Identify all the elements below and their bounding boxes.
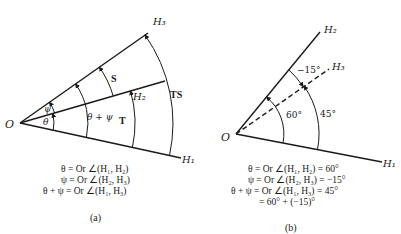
ray-label-h3-a: H₃ (152, 16, 166, 27)
arc-theta (53, 114, 54, 131)
angle-label-psi: ψ (44, 104, 52, 114)
arc-45 (304, 86, 319, 150)
ray-h3-a (20, 33, 148, 123)
caption-a: (a) (90, 212, 101, 223)
origin-label-b: O (221, 131, 230, 144)
ray-label-h2-a: H₂ (132, 91, 146, 102)
angle-label-neg15: −15° (297, 65, 321, 75)
ray-label-h2-b: H₂ (323, 24, 337, 35)
equation-b-1: θ = Or ∠(H₁, H₂) = 60° (248, 164, 339, 175)
origin-label-a: O (5, 118, 14, 131)
equation-b-3: θ + ψ = Or ∠(H₁, H₃) = 45° (231, 186, 338, 197)
diagram-b: O H₁ H₂ H₃ 60° 45° −15° (221, 24, 396, 169)
arc-theta-plus-psi (76, 84, 88, 137)
angle-label-t: T (119, 115, 126, 126)
angle-label-s: S (111, 73, 117, 84)
equation-a-1: θ = Or ∠(H₁, H₂) (61, 164, 128, 175)
ray-label-h1-a: H₁ (181, 154, 195, 165)
ray-h1-a (20, 123, 181, 158)
angle-label-45: 45° (320, 109, 336, 119)
diagram-a: O H₁ H₂ H₃ θ ψ θ + ψ S T TS (5, 16, 195, 165)
angle-label-theta: θ (43, 117, 49, 127)
equation-a-2: ψ = Or ∠(H₂, H₃) (61, 175, 130, 186)
angle-label-ts: TS (170, 89, 183, 100)
arc-ts (145, 35, 173, 156)
ray-h1-b (236, 134, 382, 162)
equation-b-2: ψ = Or ∠(H₂, H₃) = −15° (248, 175, 346, 186)
ray-label-h3-b: H₃ (331, 61, 345, 72)
equation-b-4: = 60° + (−15)° (259, 197, 315, 208)
equation-a-3: θ + ψ = Or ∠(H₁, H₃) (43, 186, 127, 197)
arc-60 (267, 97, 284, 143)
caption-b: (b) (285, 222, 297, 233)
diagram-canvas: O H₁ H₂ H₃ θ ψ θ + ψ S T TS O H₁ H₂ H₃ 6… (0, 0, 401, 234)
ray-h2-b (236, 32, 320, 134)
angle-label-theta-plus-psi: θ + ψ (87, 112, 114, 122)
ray-label-h1-b: H₁ (382, 158, 396, 169)
angle-label-60: 60° (286, 110, 302, 120)
